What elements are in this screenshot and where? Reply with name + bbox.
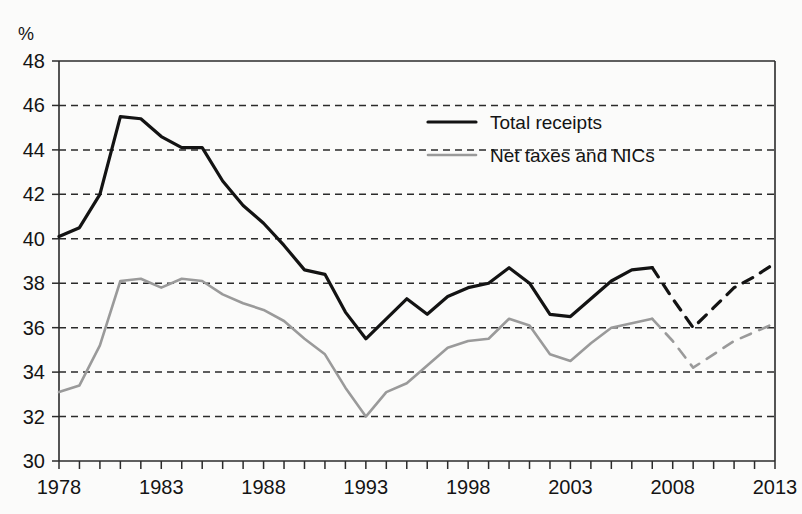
- legend-label: Total receipts: [490, 112, 602, 133]
- y-tick-label: 44: [23, 139, 45, 161]
- y-tick-label: 36: [23, 317, 45, 339]
- y-tick-label: 34: [23, 361, 45, 383]
- y-axis-unit-label: %: [18, 24, 34, 44]
- x-tick-label: 1988: [241, 476, 286, 498]
- y-tick-label: 48: [23, 50, 45, 72]
- x-tick-label: 2008: [650, 476, 695, 498]
- y-tick-label: 40: [23, 228, 45, 250]
- y-tick-label: 46: [23, 94, 45, 116]
- x-tick-label: 1998: [446, 476, 491, 498]
- x-tick-label: 1993: [344, 476, 389, 498]
- legend: Total receiptsNet taxes and NICs: [428, 112, 655, 166]
- y-tick-label: 32: [23, 406, 45, 428]
- x-tick-label: 2013: [753, 476, 798, 498]
- y-axis-labels: 30323436384042444648: [23, 50, 45, 472]
- data-series-group: [59, 117, 775, 417]
- x-tick-label: 1983: [139, 476, 184, 498]
- series-line-forecast: [652, 319, 775, 368]
- gridlines-group: [59, 105, 775, 416]
- legend-label: Net taxes and NICs: [490, 145, 655, 166]
- y-tick-label: 42: [23, 183, 45, 205]
- x-axis-labels: 19781983198819931998200320082013: [37, 476, 798, 498]
- series-line-solid: [59, 279, 652, 417]
- receipts-line-chart: 30323436384042444648 1978198319881993199…: [0, 0, 802, 514]
- chart-container: 30323436384042444648 1978198319881993199…: [0, 0, 802, 514]
- y-tick-label: 38: [23, 272, 45, 294]
- y-tick-label: 30: [23, 450, 45, 472]
- axis-frame: [59, 61, 775, 461]
- x-tick-label: 2003: [548, 476, 593, 498]
- series-line-forecast: [652, 263, 775, 327]
- x-tick-label: 1978: [37, 476, 82, 498]
- y-tick-marks: [52, 61, 59, 461]
- x-tick-marks: [59, 461, 775, 469]
